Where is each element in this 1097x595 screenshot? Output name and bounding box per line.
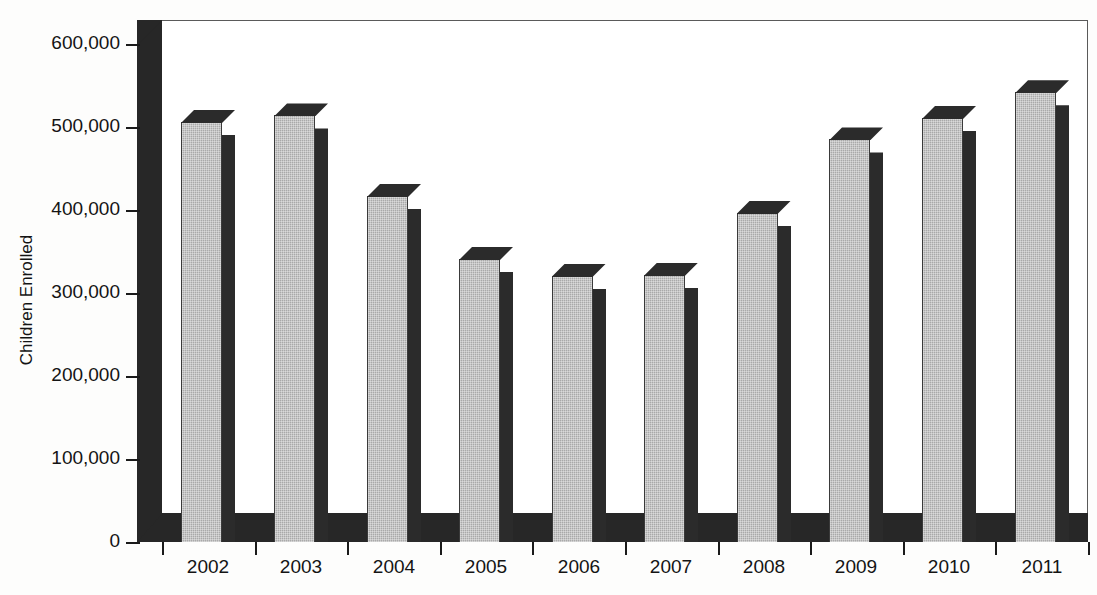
y-axis-tick-label: 0 [0,530,120,552]
bar-top-face [459,247,513,260]
bar-front-face [737,213,778,543]
x-axis-tick [162,542,164,555]
x-axis-tick [347,542,349,555]
bar-top-face [829,127,883,140]
y-axis-title: Children Enrolled [17,200,37,400]
bar-side-face [593,289,606,542]
bar-side-face [500,272,513,542]
bar-front-face [552,276,593,542]
y-axis-tick [126,376,140,378]
bar-2006 [552,276,593,542]
x-axis-tick [903,542,905,555]
y-axis-tick [126,210,140,212]
bar-top-face [922,106,976,119]
bar-2004 [367,196,408,542]
bar-side-face [222,135,235,542]
y-axis-tick-label: 100,000 [0,447,120,469]
x-axis-tick-label-2002: 2002 [158,556,258,578]
bar-front-face [1015,92,1056,542]
y-axis-tick [126,542,140,544]
x-axis-tick [718,542,720,555]
x-axis-tick-label-2008: 2008 [714,556,814,578]
bar-top-face [552,264,606,277]
bar-top-face [367,184,421,197]
y-axis-tick [126,459,140,461]
y-axis-tick-label: 500,000 [0,115,120,137]
x-axis-tick [810,542,812,555]
bar-top-face [737,201,791,214]
bar-front-face [181,122,222,542]
bar-side-face [778,226,791,543]
y-axis-tick [126,293,140,295]
bar-side-face [870,152,883,542]
bar-2002 [181,122,222,542]
x-axis-tick-label-2011: 2011 [992,556,1092,578]
bar-front-face [367,196,408,542]
bar-side-face [963,131,976,542]
bar-2007 [644,275,685,542]
bar-side-face [1056,105,1069,542]
bar-side-face [685,288,698,542]
bar-top-face [274,103,328,116]
bar-front-face [274,115,315,542]
x-axis-tick [532,542,534,555]
x-axis-tick-label-2004: 2004 [344,556,444,578]
bar-side-face [408,209,421,542]
bars-container [0,0,1097,595]
x-axis-tick-label-2010: 2010 [899,556,999,578]
x-axis-tick [625,542,627,555]
x-axis-tick-label-2009: 2009 [806,556,906,578]
x-axis-tick-label-2003: 2003 [251,556,351,578]
bar-2011 [1015,92,1056,542]
bar-2010 [922,118,963,542]
bar-front-face [459,259,500,542]
bar-2008 [737,213,778,543]
bar-top-face [644,263,698,276]
bar-top-face [181,110,235,123]
y-axis-tick [126,44,140,46]
bar-front-face [829,139,870,542]
bar-front-face [922,118,963,542]
x-axis-tick [995,542,997,555]
bar-chart: 0100,000200,000300,000400,000500,000600,… [0,0,1097,595]
x-axis-tick [255,542,257,555]
x-axis-tick-label-2007: 2007 [621,556,721,578]
bar-top-face [1015,80,1069,93]
x-axis-tick-label-2006: 2006 [529,556,629,578]
x-axis-tick [1088,542,1090,555]
bar-side-face [315,128,328,542]
y-axis-tick [126,127,140,129]
bar-2009 [829,139,870,542]
y-axis-tick-label: 600,000 [0,32,120,54]
bar-2005 [459,259,500,542]
bar-front-face [644,275,685,542]
bar-2003 [274,115,315,542]
x-axis-tick-label-2005: 2005 [436,556,536,578]
x-axis-tick [440,542,442,555]
